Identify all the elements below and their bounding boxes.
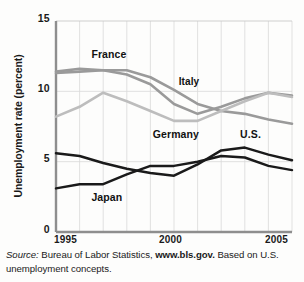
source-link-bls[interactable]: www.bls.gov. <box>155 249 215 260</box>
series-label-japan: Japan <box>91 191 122 203</box>
chart-plot-svg <box>0 0 304 282</box>
source-note: Source: Bureau of Labor Statistics, www.… <box>6 248 296 275</box>
x-tick-label-2000: 2000 <box>159 234 182 245</box>
series-label-germany: Germany <box>153 128 199 140</box>
x-tick-label-2005: 2005 <box>265 234 288 245</box>
y-tick-label-0: 0 <box>26 223 50 235</box>
y-tick-label-15: 15 <box>26 12 50 24</box>
y-tick-label-5: 5 <box>26 152 50 164</box>
source-text-before: Bureau of Labor Statistics, <box>39 249 155 260</box>
y-axis-title: Unemployment rate (percent) <box>10 46 26 206</box>
y-axis-title-text: Unemployment rate (percent) <box>12 54 24 197</box>
series-label-us: U.S. <box>240 128 261 140</box>
unemployment-rate-chart-figure: Unemployment rate (percent) 0 5 10 15 19… <box>0 0 304 282</box>
series-label-france: France <box>91 48 126 60</box>
source-label: Source: <box>6 249 39 260</box>
series-label-italy: Italy <box>179 76 200 87</box>
x-tick-label-1995: 1995 <box>54 234 77 245</box>
y-tick-label-10: 10 <box>26 82 50 94</box>
